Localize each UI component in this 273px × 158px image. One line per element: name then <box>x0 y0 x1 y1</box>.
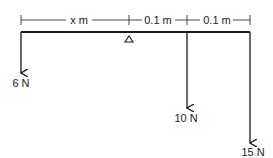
force-label-15n: 15 N <box>241 146 264 158</box>
force-label-10n: 10 N <box>174 112 197 124</box>
fulcrum-triangle-icon <box>125 36 133 42</box>
beam-diagram: x m 0.1 m 0.1 m 6 N 10 N 15 N <box>0 0 273 158</box>
dimension-label-x: x m <box>70 14 88 26</box>
dimension-label-pivot-to-10n: 0.1 m <box>144 14 172 26</box>
force-label-6n: 6 N <box>12 77 29 89</box>
dimension-label-10n-to-end: 0.1 m <box>203 14 231 26</box>
